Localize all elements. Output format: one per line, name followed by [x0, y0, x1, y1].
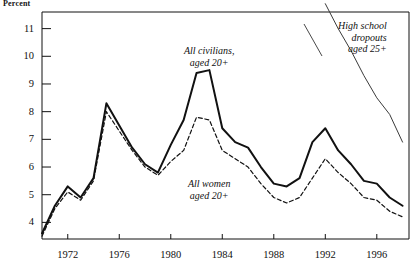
- annotation-0: All civilians,aged 20+: [184, 45, 235, 68]
- x-axis-tick-label: 1992: [303, 250, 347, 261]
- annotation-line: dropouts: [338, 32, 387, 44]
- annotation-line: aged 20+: [188, 190, 231, 202]
- annotation-1: All womenaged 20+: [188, 178, 231, 201]
- y-axis-tick-label: 9: [12, 79, 34, 90]
- annotation-line: All women: [188, 178, 231, 190]
- x-axis-tick-label: 1988: [252, 250, 296, 261]
- x-axis-tick-label: 1976: [97, 250, 141, 261]
- y-axis-tick-label: 11: [12, 24, 34, 35]
- series-line-0: [42, 70, 403, 233]
- x-axis-tick-label: 1972: [46, 250, 90, 261]
- annotation-line: aged 20+: [184, 57, 235, 69]
- annotation-line: aged 25+: [338, 43, 387, 55]
- series-line-1: [42, 112, 403, 237]
- y-axis-tick-label: 6: [12, 162, 34, 173]
- x-axis-tick-label: 1980: [149, 250, 193, 261]
- x-axis-tick-label: 1996: [355, 250, 399, 261]
- unemployment-line-chart: Percent 4567891011 197219761980198419881…: [0, 0, 416, 277]
- y-axis-tick-label: 4: [12, 217, 34, 228]
- y-axis-tick-label: 8: [12, 107, 34, 118]
- annotation-line: High school: [338, 20, 387, 32]
- annotation-2: High schooldropoutsaged 25+: [338, 20, 387, 55]
- y-axis-tick-label: 10: [12, 51, 34, 62]
- y-axis-tick-label: 7: [12, 134, 34, 145]
- annotation-leader-line: [304, 24, 322, 56]
- annotation-line: All civilians,: [184, 45, 235, 57]
- y-axis-tick-label: 5: [12, 190, 34, 201]
- x-axis-tick-label: 1984: [200, 250, 244, 261]
